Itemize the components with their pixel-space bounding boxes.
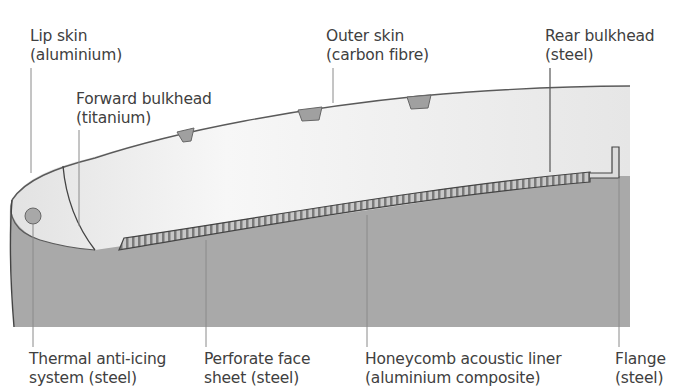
- label-line: (aluminium composite): [365, 369, 561, 388]
- label-line: (carbon fibre): [326, 46, 429, 65]
- label-line: (aluminium): [30, 46, 122, 65]
- label-rear-bulkhead: Rear bulkhead (steel): [545, 27, 654, 65]
- label-line: Thermal anti-icing: [29, 350, 166, 369]
- stiffener: [407, 95, 431, 109]
- label-honeycomb-liner: Honeycomb acoustic liner (aluminium comp…: [365, 350, 561, 388]
- label-line: system (steel): [29, 369, 166, 388]
- label-perforate-face-sheet: Perforate face sheet (steel): [204, 350, 310, 388]
- label-flange: Flange (steel): [615, 350, 666, 388]
- label-line: (titanium): [76, 109, 212, 128]
- label-line: Outer skin: [326, 27, 429, 46]
- label-line: Lip skin: [30, 27, 122, 46]
- label-line: Honeycomb acoustic liner: [365, 350, 561, 369]
- nacelle-inlet-diagram: Lip skin (aluminium) Forward bulkhead (t…: [0, 0, 684, 390]
- label-line: Forward bulkhead: [76, 90, 212, 109]
- label-thermal-anti-icing: Thermal anti-icing system (steel): [29, 350, 166, 388]
- label-line: (steel): [615, 369, 666, 388]
- label-forward-bulkhead: Forward bulkhead (titanium): [76, 90, 212, 128]
- label-line: Perforate face: [204, 350, 310, 369]
- label-line: Flange: [615, 350, 666, 369]
- anti-icing-pipe: [25, 208, 41, 224]
- label-line: Rear bulkhead: [545, 27, 654, 46]
- stiffener: [298, 107, 322, 121]
- label-line: sheet (steel): [204, 369, 310, 388]
- label-lip-skin: Lip skin (aluminium): [30, 27, 122, 65]
- label-outer-skin: Outer skin (carbon fibre): [326, 27, 429, 65]
- label-line: (steel): [545, 46, 654, 65]
